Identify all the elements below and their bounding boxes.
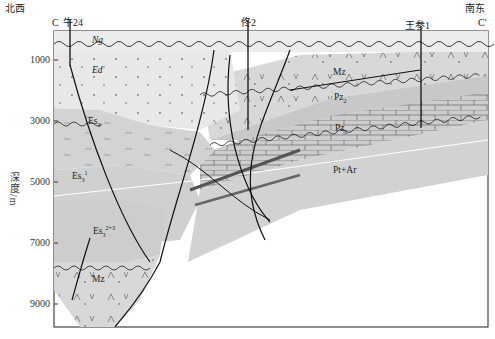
section-end-c-prime: C' bbox=[478, 18, 486, 28]
unit-ng: Ng bbox=[92, 36, 103, 46]
y-tick-9000: 9000 bbox=[30, 299, 50, 309]
y-tick-3000: 3000 bbox=[30, 116, 50, 126]
section-end-c: C bbox=[52, 18, 59, 28]
direction-northwest: 北西 bbox=[5, 4, 25, 14]
unit-mz-top: Mz bbox=[333, 68, 346, 78]
y-tick-7000: 7000 bbox=[30, 238, 50, 248]
unit-es3-1: Es31 bbox=[72, 170, 88, 183]
unit-ed: Ed bbox=[92, 66, 103, 76]
y-axis-label: 深度/m bbox=[6, 172, 21, 207]
unit-mz-bottom: Mz bbox=[92, 275, 105, 285]
unit-es3-2-3: Es32+3 bbox=[93, 225, 115, 238]
unit-pz1: Pz1 bbox=[335, 124, 348, 135]
well-label-tong2: 佟2 bbox=[241, 18, 256, 28]
y-tick-5000: 5000 bbox=[30, 177, 50, 187]
well-label-wangcan1: 王参1 bbox=[405, 21, 430, 31]
direction-southeast: 南东 bbox=[465, 4, 485, 14]
unit-pz2: Pz2 bbox=[334, 93, 347, 104]
y-tick-1000: 1000 bbox=[30, 55, 50, 65]
unit-pt-ar: Pt+Ar bbox=[333, 166, 356, 176]
well-label-niu24: 牛24 bbox=[63, 18, 83, 28]
unit-es3: Es3 bbox=[88, 117, 101, 128]
